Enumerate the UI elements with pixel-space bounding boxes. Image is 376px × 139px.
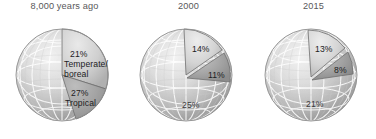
- wedge-label-25: 25%: [182, 101, 200, 110]
- wedge-label-11: 11%: [208, 71, 225, 80]
- wedge-label-8: 8%: [334, 66, 347, 75]
- globe-graphic-2015: 13% 8% 21%: [251, 19, 376, 137]
- panel-title: 2015: [251, 1, 376, 11]
- wedge-label-temperate-pct: 21%: [70, 50, 88, 59]
- wedge-label-temperate-name-line1: Temperate/: [64, 60, 108, 69]
- wedge-label-21: 21%: [306, 100, 324, 109]
- forest-cover-globes-figure: 8,000 years ago: [0, 0, 376, 139]
- globe-panel-8000-years-ago: 8,000 years ago: [2, 0, 127, 139]
- globe-panel-2000: 2000: [126, 0, 251, 139]
- wedge-label-14: 14%: [192, 45, 210, 54]
- panel-title: 2000: [126, 1, 251, 11]
- globe-svg: [251, 19, 376, 137]
- panel-title: 8,000 years ago: [2, 1, 127, 11]
- wedge-label-tropical-name: Tropical: [65, 99, 96, 108]
- globe-panel-2015: 2015: [251, 0, 376, 139]
- wedge-label-tropical-pct: 27%: [71, 89, 89, 98]
- globe-svg: [126, 19, 251, 137]
- globe-graphic-2000: 14% 11% 25%: [126, 19, 251, 137]
- wedge-label-13: 13%: [315, 45, 333, 54]
- wedge-label-temperate-name-line2: boreal: [64, 70, 89, 79]
- globe-graphic-8000-years-ago: 21% Temperate/ boreal 27% Tropical: [2, 19, 127, 137]
